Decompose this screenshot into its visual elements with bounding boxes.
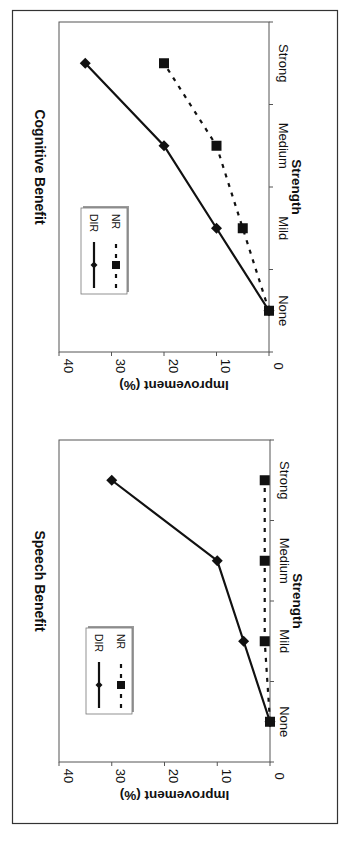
data-point-nr <box>260 475 270 485</box>
chart-title: Speech Benefit <box>32 530 48 631</box>
value-tick-label: 30 <box>113 359 128 373</box>
value-tick-label: 0 <box>272 772 287 779</box>
legend-marker-square <box>112 261 120 269</box>
y-axis-label: Improvement (%) <box>119 378 229 393</box>
data-point-nr <box>159 58 169 68</box>
category-label-none: None <box>277 706 292 737</box>
value-tick-label: 10 <box>218 359 233 373</box>
value-tick-label: 40 <box>61 769 76 783</box>
speech-benefit-chart: 010203040NoneMildMediumStrongSpeech Bene… <box>32 440 305 803</box>
plot-area <box>59 22 269 352</box>
legend-label-dir: DIR <box>93 634 105 653</box>
data-point-nr <box>260 636 270 646</box>
legend-label-dir: DIR <box>88 214 100 233</box>
category-label-medium: Medium <box>277 538 292 584</box>
category-label-strong: Strong <box>277 461 292 499</box>
category-label-medium: Medium <box>276 123 291 169</box>
value-tick-label: 40 <box>61 359 76 373</box>
data-point-nr <box>238 223 248 233</box>
data-point-nr <box>260 556 270 566</box>
value-tick-label: 0 <box>271 362 286 369</box>
value-tick-label: 10 <box>219 769 234 783</box>
category-label-mild: Mild <box>276 216 291 240</box>
data-point-nr <box>264 306 274 316</box>
value-tick-label: 20 <box>166 769 181 783</box>
value-tick-label: 30 <box>113 769 128 783</box>
value-tick-label: 20 <box>166 359 181 373</box>
y-axis-label: Improvement (%) <box>120 788 230 803</box>
figure-canvas: 010203040NoneMildMediumStrongCognitive B… <box>0 0 348 847</box>
chart-title: Cognitive Benefit <box>32 109 48 224</box>
legend-label-nr: NR <box>115 634 127 650</box>
category-label-none: None <box>276 295 291 326</box>
legend-marker-square <box>117 681 125 689</box>
x-axis-label: Strength <box>290 573 305 629</box>
data-point-nr <box>212 141 222 151</box>
category-label-strong: Strong <box>276 44 291 82</box>
data-point-nr <box>265 717 275 727</box>
cognitive-benefit-chart: 010203040NoneMildMediumStrongCognitive B… <box>32 22 304 393</box>
legend-label-nr: NR <box>110 214 122 230</box>
category-label-mild: Mild <box>277 629 292 653</box>
legend: DIRNR <box>81 206 129 294</box>
x-axis-label: Strength <box>289 159 304 215</box>
legend: DIRNR <box>86 626 134 714</box>
